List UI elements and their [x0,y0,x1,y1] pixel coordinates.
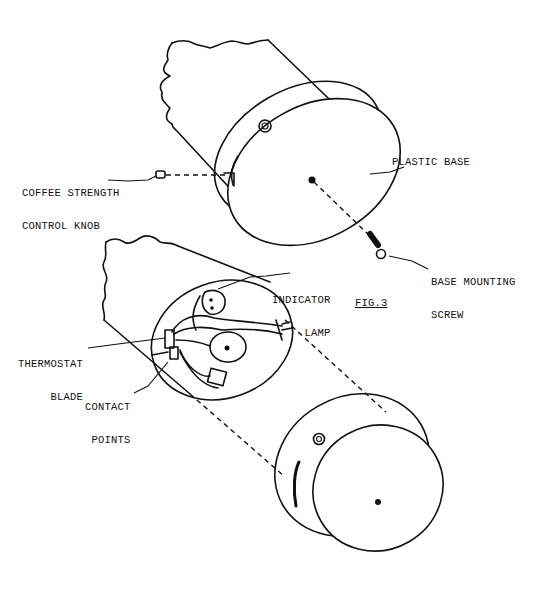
label-line: POINTS [85,435,131,446]
label-line: SCREW [431,310,516,321]
exploded-view-diagram: COFFEE STRENGTH CONTROL KNOB PLASTIC BAS… [0,0,548,597]
label-line: COFFEE STRENGTH [22,188,120,199]
lower-percolator-body [103,236,270,394]
label-line: BLADE [18,392,83,403]
label-line: THERMOSTAT [18,359,83,370]
lower-plastic-base [249,366,466,575]
label-coffee-strength-knob: COFFEE STRENGTH CONTROL KNOB [22,166,120,243]
label-line: INDICATOR [272,295,331,306]
label-base-mounting-screw: BASE MOUNTING SCREW [431,255,516,332]
label-line: CONTACT [85,402,131,413]
label-line: LAMP [272,328,331,339]
label-plastic-base: PLASTIC BASE [392,157,470,168]
label-line: CONTROL KNOB [22,221,120,232]
figure-title: FIG.3 [355,298,388,309]
label-thermostat-blade: THERMOSTAT BLADE [18,337,83,414]
label-line: BASE MOUNTING [431,277,516,288]
label-indicator-lamp: INDICATOR LAMP [272,273,331,350]
projection-line-left [190,394,284,476]
label-contact-points: CONTACT POINTS [85,380,131,457]
